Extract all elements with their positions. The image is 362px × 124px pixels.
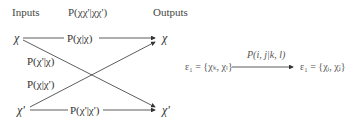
output-node-top: χ (162, 32, 167, 44)
cross-down-edge (23, 40, 155, 107)
left-state-label: ε₁ = {χₖ, χₗ} (185, 61, 233, 73)
top-edge-label: P(χ|χ) (67, 32, 92, 44)
right-state-label: ε₁ = {χᵢ, χⱼ} (300, 61, 345, 73)
bottom-edge-label: P(χ'|χ') (70, 104, 99, 116)
output-node-bottom: χ' (162, 104, 170, 116)
input-node-top: χ (14, 32, 19, 44)
cross-up-edge-label: P(χ|χ') (27, 78, 54, 90)
input-node-bottom: χ' (17, 104, 25, 116)
transition-probability-label: P(i, j|k, l) (247, 49, 285, 61)
cross-down-edge-label: P(χ'|χ) (27, 55, 54, 67)
